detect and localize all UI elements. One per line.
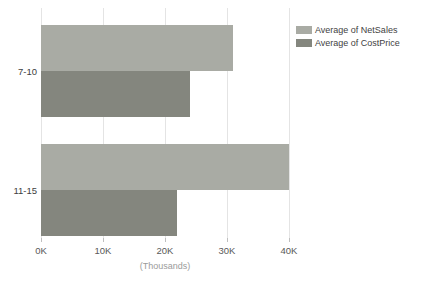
tick-mark	[165, 238, 166, 242]
tick-mark	[227, 238, 228, 242]
value-tick-label: 10K	[95, 245, 112, 256]
legend-entry-costprice[interactable]: Average of CostPrice	[296, 38, 400, 48]
tick-mark	[41, 238, 42, 242]
bar-11-15-netsales[interactable]	[41, 144, 289, 190]
legend-label: Average of NetSales	[315, 25, 397, 35]
legend-swatch-icon	[296, 26, 312, 34]
value-tick-label: 0K	[35, 245, 47, 256]
category-label: 11-15	[13, 185, 37, 196]
value-tick-label: 20K	[157, 245, 174, 256]
tick-mark	[289, 238, 290, 242]
legend: Average of NetSalesAverage of CostPrice	[296, 25, 400, 48]
legend-entry-netsales[interactable]: Average of NetSales	[296, 25, 400, 35]
bar-chart: 7-1011-15 0K10K20K30K40K (Thousands) Ave…	[0, 0, 429, 291]
gridline	[289, 8, 290, 238]
bar-7-10-costprice[interactable]	[41, 71, 190, 117]
value-axis-title: (Thousands)	[140, 261, 191, 271]
plot-area	[41, 8, 289, 238]
value-tick-label: 30K	[219, 245, 236, 256]
value-tick-label: 40K	[281, 245, 298, 256]
legend-label: Average of CostPrice	[315, 38, 400, 48]
tick-mark	[103, 238, 104, 242]
bar-7-10-netsales[interactable]	[41, 25, 233, 71]
legend-swatch-icon	[296, 39, 312, 47]
category-label: 7-10	[18, 66, 37, 77]
bar-11-15-costprice[interactable]	[41, 190, 177, 236]
